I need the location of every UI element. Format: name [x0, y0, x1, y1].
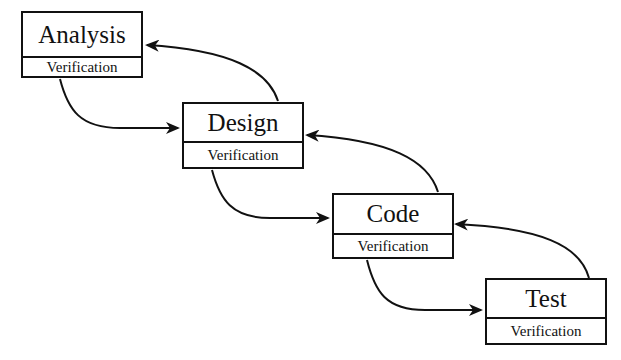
stage-subtitle: Verification — [184, 143, 302, 167]
stage-title: Analysis — [23, 13, 141, 58]
stage-analysis: Analysis Verification — [21, 11, 143, 78]
stage-subtitle: Verification — [23, 58, 141, 76]
stage-subtitle: Verification — [334, 235, 452, 257]
arrow-code-to-test — [367, 260, 481, 310]
arrow-test-to-code — [456, 224, 589, 278]
stage-test: Test Verification — [485, 278, 607, 345]
stage-title: Code — [334, 195, 452, 235]
arrow-design-to-code — [212, 170, 328, 218]
stage-code: Code Verification — [332, 193, 454, 259]
stage-subtitle: Verification — [487, 319, 605, 343]
stage-title: Test — [487, 280, 605, 319]
arrow-code-to-design — [307, 135, 438, 192]
stage-title: Design — [184, 104, 302, 143]
arrow-design-to-analysis — [147, 45, 278, 101]
arrow-analysis-to-design — [60, 79, 178, 128]
stage-design: Design Verification — [182, 102, 304, 169]
